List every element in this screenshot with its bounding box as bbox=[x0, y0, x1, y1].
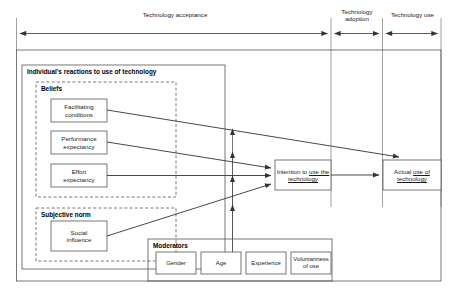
node-label-voluntariness-of-use: Voluntariness of use bbox=[291, 256, 331, 270]
node-label-wrap-gender: Gender bbox=[156, 252, 196, 274]
node-label-actual-use: Actual use of technology bbox=[384, 168, 440, 182]
path-social-influence-to-intention bbox=[107, 184, 271, 236]
node-label-actual-use-prefix: Actual bbox=[394, 168, 413, 175]
node-label-age: Age bbox=[201, 260, 241, 267]
node-label-facilitating-conditions: Facilitating conditions bbox=[51, 103, 107, 117]
node-label-wrap-age: Age bbox=[201, 252, 241, 274]
node-label-intention-underlined: use the technology bbox=[288, 168, 329, 182]
node-label-experience: Experience bbox=[246, 260, 286, 267]
node-label-intention-prefix: Intention to bbox=[277, 168, 309, 175]
path-facilitating-conditions-to-actual-use bbox=[107, 110, 399, 157]
node-label-wrap-experience: Experience bbox=[246, 252, 286, 274]
node-label-social-influence: Social influence bbox=[51, 229, 107, 243]
path-performance-expectancy-to-intention bbox=[107, 142, 271, 168]
node-label-wrap-intention-to-use: Intention to use the technology bbox=[276, 160, 330, 190]
node-label-wrap-actual-use: Actual use of technology bbox=[384, 160, 440, 190]
node-label-wrap-voluntariness-of-use: Voluntariness of use bbox=[291, 252, 331, 274]
node-label-wrap-facilitating-conditions: Facilitating conditions bbox=[51, 99, 107, 122]
node-label-gender: Gender bbox=[156, 260, 196, 267]
node-label-actual-use-underlined: use of technology bbox=[397, 168, 430, 182]
node-label-wrap-performance-expectancy: Performance expectancy bbox=[51, 131, 107, 154]
diagram-canvas: Technology acceptance Technology adoptio… bbox=[0, 0, 455, 295]
node-label-intention-to-use: Intention to use the technology bbox=[276, 168, 330, 182]
node-label-performance-expectancy: Performance expectancy bbox=[51, 135, 107, 149]
node-label-wrap-social-influence: Social influence bbox=[51, 221, 107, 251]
node-label-wrap-effort-expectancy: Effort expectancy bbox=[51, 164, 107, 187]
node-label-effort-expectancy: Effort expectancy bbox=[51, 168, 107, 182]
